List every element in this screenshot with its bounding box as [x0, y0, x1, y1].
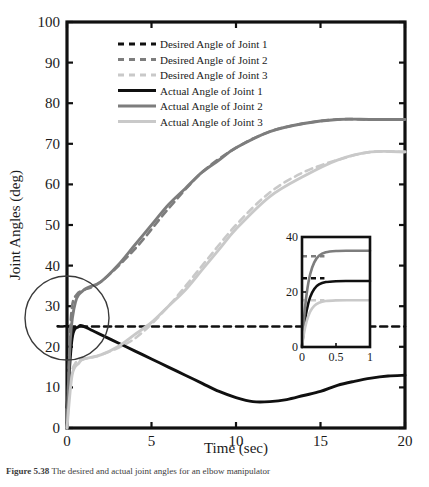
y-tick-label: 90	[45, 55, 60, 71]
y-tick-label: 100	[38, 14, 61, 30]
inset-y-tick-label: 0	[292, 340, 298, 354]
x-tick-label: 20	[398, 433, 413, 449]
y-tick-label: 40	[45, 258, 60, 274]
y-tick-label: 60	[45, 176, 60, 192]
legend-label: Actual Angle of Joint 1	[160, 85, 263, 97]
x-tick-label: 5	[148, 433, 156, 449]
y-tick-label: 20	[45, 339, 60, 355]
legend-item: Actual Angle of Joint 2	[118, 100, 263, 112]
x-tick-label: 0	[63, 433, 71, 449]
x-tick-label: 15	[313, 433, 328, 449]
legend-label: Desired Angle of Joint 2	[160, 54, 268, 66]
y-axis-title: Joint Angles (deg)	[7, 170, 24, 280]
legend-item: Actual Angle of Joint 1	[118, 85, 263, 97]
legend-label: Actual Angle of Joint 2	[160, 100, 263, 112]
chart-legend: Desired Angle of Joint 1Desired Angle of…	[118, 38, 268, 128]
y-tick-label: 50	[45, 217, 60, 233]
x-axis-title: Time (sec)	[204, 440, 268, 457]
inset-x-tick-label: 1	[367, 350, 373, 364]
figure-container: 0102030405060708090100 05101520 Time (se…	[0, 0, 429, 487]
inset-x-tick-label: 0	[299, 350, 305, 364]
legend-item: Desired Angle of Joint 1	[118, 38, 268, 50]
legend-label: Desired Angle of Joint 1	[160, 38, 268, 50]
legend-item: Actual Angle of Joint 3	[118, 116, 263, 128]
caption-text: The desired and actual joint angles for …	[51, 466, 270, 476]
y-axis-tick-labels: 0102030405060708090100	[38, 14, 61, 436]
y-tick-label: 30	[45, 298, 60, 314]
y-tick-label: 70	[45, 136, 60, 152]
legend-label: Desired Angle of Joint 3	[160, 69, 268, 81]
inset-y-tick-label: 20	[286, 285, 298, 299]
inset-x-tick-label: 0.5	[329, 350, 344, 364]
caption-label: Figure 5.38	[6, 466, 49, 476]
inset-y-tick-label: 40	[286, 230, 298, 244]
joint-angles-chart: 0102030405060708090100 05101520 Time (se…	[0, 0, 429, 460]
y-tick-label: 10	[45, 379, 60, 395]
legend-item: Desired Angle of Joint 3	[118, 69, 268, 81]
legend-label: Actual Angle of Joint 3	[160, 116, 263, 128]
y-tick-label: 80	[45, 95, 60, 111]
figure-caption: Figure 5.38 The desired and actual joint…	[6, 466, 426, 477]
y-tick-label: 0	[53, 420, 61, 436]
legend-item: Desired Angle of Joint 2	[118, 54, 268, 66]
inset-plot: 0204000.51	[286, 230, 373, 364]
